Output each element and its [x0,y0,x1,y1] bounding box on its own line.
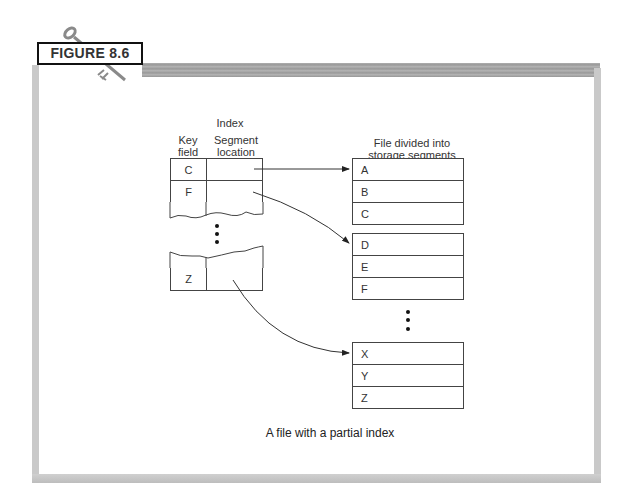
key-icon [0,0,632,494]
figure-label: FIGURE 8.6 [37,42,143,65]
